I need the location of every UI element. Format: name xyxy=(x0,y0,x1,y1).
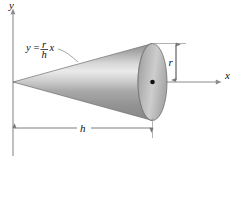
equation-variable: x xyxy=(49,42,55,53)
equation-lhs: y xyxy=(25,42,31,53)
height-dimension: h xyxy=(15,118,153,138)
x-axis-label: x xyxy=(224,69,230,81)
cone-lateral-surface xyxy=(13,44,153,121)
y-axis-label: y xyxy=(8,0,14,11)
equation-denominator: h xyxy=(41,49,46,60)
height-label: h xyxy=(80,122,86,134)
cone-solid xyxy=(13,44,167,121)
base-center-point xyxy=(150,80,155,85)
equation-equals: = xyxy=(34,42,40,53)
equation-label-group: y = r h x xyxy=(25,39,78,63)
figure-canvas: r h y = r h x y x xyxy=(0,0,240,203)
x-axis-arrowhead xyxy=(216,80,222,85)
radius-label: r xyxy=(169,56,174,68)
cone-figure: r h y = r h x y x xyxy=(0,0,240,203)
equation-leader-line xyxy=(58,49,78,62)
